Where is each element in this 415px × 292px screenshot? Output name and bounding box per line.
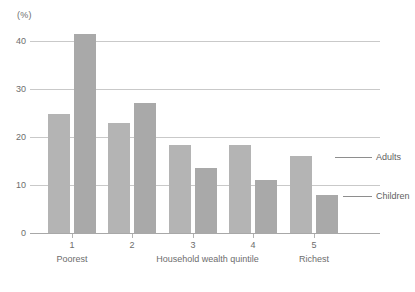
y-tick-label-30: 30 xyxy=(0,84,26,94)
callout-label-adults: Adults xyxy=(376,152,401,162)
y-axis-unit-label: (%) xyxy=(17,10,32,20)
x-axis-title: Household wealth quintile xyxy=(0,254,415,264)
bar-adults-q3 xyxy=(169,145,191,233)
bar-children-q5 xyxy=(316,195,338,233)
callout-line-adults xyxy=(335,157,372,158)
x-tick-label-3: 3 xyxy=(163,240,223,250)
x-tick-label-5: 5 xyxy=(284,240,344,250)
x-tick-mark-3 xyxy=(193,234,194,238)
bar-adults-q5 xyxy=(290,156,312,233)
y-tick-label-0: 0 xyxy=(0,228,26,238)
x-tick-mark-2 xyxy=(132,234,133,238)
bar-children-q4 xyxy=(255,180,277,233)
x-tick-mark-1 xyxy=(72,234,73,238)
bar-children-q1 xyxy=(74,34,96,233)
x-tick-mark-4 xyxy=(253,234,254,238)
bar-children-q3 xyxy=(195,168,217,233)
bar-chart: (%) 40 30 20 10 0 1 2 3 4 5 Poorest Rich… xyxy=(0,0,415,292)
y-tick-label-40: 40 xyxy=(0,36,26,46)
y-tick-label-10: 10 xyxy=(0,180,26,190)
callout-label-children: Children xyxy=(376,191,410,201)
x-tick-label-2: 2 xyxy=(102,240,162,250)
bar-adults-q1 xyxy=(48,114,70,233)
callout-line-children xyxy=(343,196,372,197)
x-tick-label-4: 4 xyxy=(223,240,283,250)
y-tick-label-20: 20 xyxy=(0,132,26,142)
x-axis-baseline xyxy=(30,233,380,234)
bar-children-q2 xyxy=(134,103,156,233)
bar-adults-q4 xyxy=(229,145,251,233)
x-tick-label-1: 1 xyxy=(42,240,102,250)
bar-adults-q2 xyxy=(108,123,130,233)
x-tick-mark-5 xyxy=(314,234,315,238)
